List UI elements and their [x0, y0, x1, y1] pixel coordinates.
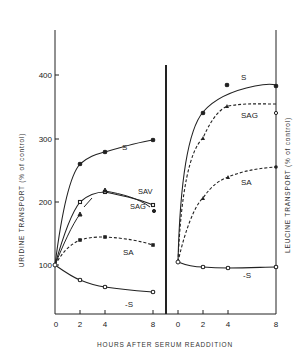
right-series-NS	[178, 262, 278, 270]
label-right-SA: SA	[241, 178, 252, 187]
svg-text:0: 0	[176, 320, 181, 329]
x-axis-label: HOURS AFTER SERUM READDITION	[97, 341, 233, 348]
y-axis-label-right: LEUCINE TRANSPORT (% of control)	[284, 117, 292, 253]
left-series-SAG	[55, 188, 156, 265]
y-axis-label-left: URIDINE TRANSPORT (% of control)	[18, 133, 26, 267]
label-left-SAG: SAG	[130, 202, 146, 211]
svg-text:2: 2	[78, 320, 83, 329]
chart-figure: 400 300 200 100 0 2 4 8 0 2 4 8 HOURS AF…	[0, 0, 303, 361]
svg-text:300: 300	[39, 135, 53, 144]
svg-text:100: 100	[39, 261, 53, 270]
svg-text:2: 2	[201, 320, 206, 329]
label-left-NS: -S	[125, 300, 133, 309]
x-tick-labels: 0 2 4 8 0 2 4 8	[54, 320, 279, 329]
svg-text:8: 8	[151, 320, 156, 329]
label-left-SAV: SAV	[138, 187, 152, 196]
svg-text:400: 400	[39, 71, 53, 80]
right-series-S	[178, 83, 278, 262]
label-right-NS: -S	[243, 271, 251, 280]
label-left-SA: SA	[123, 248, 134, 257]
left-series-NS	[55, 265, 155, 294]
right-series-SA-markers	[201, 165, 278, 200]
svg-text:200: 200	[39, 198, 53, 207]
right-series-SAG	[178, 104, 276, 262]
label-right-S: S	[241, 73, 246, 82]
left-origin-marker	[53, 263, 57, 267]
svg-text:0: 0	[54, 320, 59, 329]
left-series-SA	[55, 236, 154, 265]
y-tick-labels: 400 300 200 100	[39, 71, 53, 270]
svg-text:8: 8	[274, 320, 279, 329]
right-series-SAG-markers	[201, 104, 278, 140]
svg-text:4: 4	[103, 320, 108, 329]
right-series-SA	[178, 167, 276, 262]
svg-text:4: 4	[226, 320, 231, 329]
label-right-SAG: SAG	[241, 111, 258, 120]
right-origin-marker	[176, 260, 180, 264]
label-left-S: S	[122, 143, 127, 152]
